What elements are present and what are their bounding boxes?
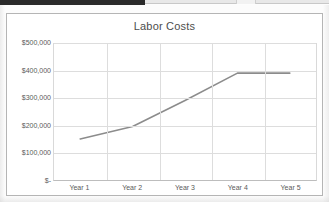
chart-object[interactable]: Labor Costs $500,000$400,000$300,000$200… [6,13,323,196]
x-axis-tick-label: Year 5 [264,184,317,191]
y-axis-tick-label: $200,000 [7,122,51,129]
gridline-horizontal [54,71,316,72]
gridline-horizontal [54,126,316,127]
y-axis-tick-label: $300,000 [7,94,51,101]
x-axis-tick-label: Year 3 [159,184,212,191]
gridline-horizontal [54,98,316,99]
gridline-vertical [212,43,213,180]
screen-capture: Labor Costs $500,000$400,000$300,000$200… [0,0,329,202]
toolbar-tab[interactable] [236,0,256,4]
y-axis-tick-label: $100,000 [7,149,51,156]
gridline-horizontal [54,153,316,154]
gridline-vertical [107,43,108,180]
y-axis-tick-label: $400,000 [7,67,51,74]
x-axis-tick-label: Year 4 [211,184,264,191]
x-axis-tick-label: Year 1 [53,184,106,191]
plot-inner [54,43,316,180]
y-axis: $500,000$400,000$300,000$200,000$100,000… [7,43,51,181]
y-axis-tick-label: $- [7,177,51,184]
x-axis-tick-label: Year 2 [106,184,159,191]
chart-title: Labor Costs [7,20,322,32]
plot-area[interactable] [53,43,317,181]
y-axis-tick-label: $500,000 [7,39,51,46]
document-page: Labor Costs $500,000$400,000$300,000$200… [0,5,329,202]
gridline-vertical [265,43,266,180]
gridline-vertical [160,43,161,180]
gridline-horizontal [54,43,316,44]
series-labor-costs [54,43,316,180]
x-axis: Year 1Year 2Year 3Year 4Year 5 [53,184,317,198]
